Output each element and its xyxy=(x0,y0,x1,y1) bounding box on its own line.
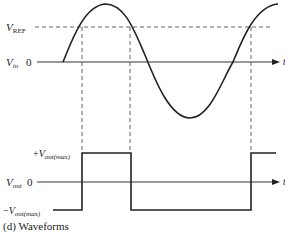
vin-sine-wave xyxy=(63,4,278,118)
vout-zero-label: 0 xyxy=(27,176,33,188)
arrow-head-icon xyxy=(272,59,280,65)
input-plot: t VREF Vin 0 xyxy=(6,4,285,118)
vout-max-label: +Vout(max) xyxy=(33,148,71,161)
vref-label: VREF xyxy=(6,21,26,35)
vin-zero-label: 0 xyxy=(26,56,32,68)
output-plot: t +Vout(max) Vout 0 −Vout(max) xyxy=(3,148,285,218)
arrow-head-icon xyxy=(272,179,280,185)
waveform-diagram: t VREF Vin 0 t +Vout(max) Vout xyxy=(0,0,285,235)
t-axis-label: t xyxy=(283,56,285,67)
vout-label: Vout xyxy=(6,176,23,190)
crossing-guides xyxy=(82,27,251,153)
vin-label: Vin xyxy=(6,56,19,70)
vout-min-label: −Vout(max) xyxy=(3,205,41,218)
t-axis-label: t xyxy=(283,176,285,187)
figure-caption: (d) Waveforms xyxy=(3,220,69,233)
